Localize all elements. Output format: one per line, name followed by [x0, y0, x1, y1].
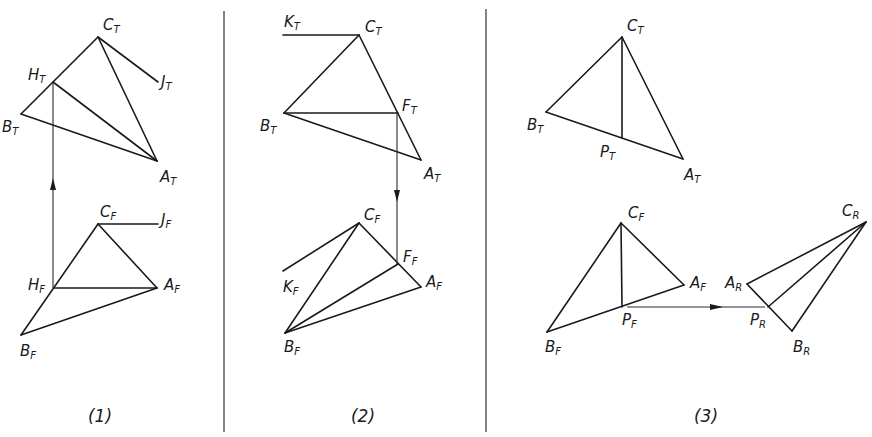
point-label: AT — [159, 168, 177, 187]
point-label: FT — [402, 97, 418, 116]
panel-2-edge-view-construction: KTCTFTBTATCFFFKFAFBF(2) — [260, 13, 442, 426]
edge-line — [53, 82, 157, 161]
edge-line — [98, 37, 158, 82]
point-label: CF — [628, 204, 644, 223]
point-label: AT — [683, 166, 701, 185]
point-label: JF — [158, 211, 171, 230]
panel-dividers — [224, 9, 486, 432]
edge-line — [285, 223, 359, 333]
panel-caption: (3) — [694, 406, 718, 426]
edge-line — [21, 288, 157, 335]
point-label: JT — [158, 73, 172, 92]
edge-line — [284, 35, 359, 113]
point-label: CF — [364, 206, 380, 225]
edge-line — [547, 285, 684, 332]
point-label: BF — [284, 338, 300, 357]
point-label: AF — [163, 276, 180, 295]
panel-caption: (1) — [88, 406, 112, 426]
point-label: HT — [28, 66, 46, 85]
point-label: AF — [425, 273, 442, 292]
edge-line — [98, 37, 157, 161]
arrowhead-icon — [50, 178, 56, 190]
edge-line — [285, 264, 398, 333]
point-label: BT — [260, 117, 277, 136]
edge-line — [21, 114, 157, 161]
edge-line — [285, 287, 421, 333]
point-label: PR — [750, 311, 766, 330]
edge-line — [546, 37, 622, 112]
edge-line — [283, 223, 359, 271]
arrowhead-icon — [710, 304, 723, 310]
edge-line — [359, 223, 421, 287]
point-label: PF — [622, 311, 637, 330]
point-label: PT — [600, 143, 616, 162]
point-label: CF — [100, 203, 116, 222]
point-label: AF — [689, 274, 706, 293]
point-label: BF — [545, 338, 561, 357]
point-label: FF — [403, 248, 418, 267]
edge-line — [747, 222, 866, 284]
point-label: CT — [627, 17, 644, 36]
descriptive-geometry-figure: CTHTJTBTATCFJFHFAFBF(1) KTCTFTBTATCFFFKF… — [0, 0, 872, 437]
panel-1-true-length-construction: CTHTJTBTATCFJFHFAFBF(1) — [2, 16, 180, 426]
edge-line — [621, 223, 684, 285]
point-label: BT — [2, 118, 19, 137]
point-label: AR — [724, 274, 742, 293]
arrowhead-icon — [394, 190, 400, 202]
point-label: CR — [842, 202, 859, 221]
edge-line — [98, 224, 157, 288]
point-label: KT — [284, 13, 301, 32]
panel-caption: (2) — [351, 406, 375, 426]
point-label: BF — [20, 342, 36, 361]
point-label: BR — [793, 338, 810, 357]
edge-line — [621, 223, 622, 307]
panel-3-auxiliary-view-construction: CTBTPTATCFAFPFBFARPRBRCR(3) — [527, 17, 866, 426]
point-label: CT — [103, 16, 120, 35]
point-label: KF — [283, 278, 299, 297]
point-label: HF — [28, 276, 45, 295]
point-label: CT — [365, 18, 382, 37]
point-label: AT — [423, 165, 441, 184]
point-label: BT — [527, 116, 544, 135]
edge-line — [547, 223, 621, 332]
